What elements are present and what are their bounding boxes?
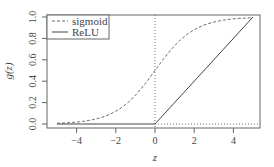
legend-label-relu: ReLU xyxy=(72,26,99,38)
chart: 0.00.20.40.60.81.0 −4−2024 z g(z) sigmoi… xyxy=(0,0,274,167)
y-tick-label: 1.0 xyxy=(27,11,38,24)
y-axis-label: g(z) xyxy=(2,62,15,79)
x-tick-label: −4 xyxy=(71,135,82,146)
x-tick-label: −2 xyxy=(110,135,121,146)
y-tick-label: 0.6 xyxy=(27,54,38,67)
legend: sigmoid ReLU xyxy=(47,15,109,39)
x-tick-label: 4 xyxy=(231,135,236,146)
y-tick-label: 0.4 xyxy=(27,75,38,88)
y-tick-label: 0.2 xyxy=(27,96,38,109)
x-tick-label: 2 xyxy=(192,135,197,146)
y-axis: 0.00.20.40.60.81.0 xyxy=(27,11,47,131)
x-axis-label: z xyxy=(152,151,158,163)
x-tick-label: 0 xyxy=(153,135,158,146)
y-tick-label: 0.0 xyxy=(27,118,38,131)
x-axis: −4−2024 xyxy=(71,128,236,146)
y-tick-label: 0.8 xyxy=(27,32,38,45)
